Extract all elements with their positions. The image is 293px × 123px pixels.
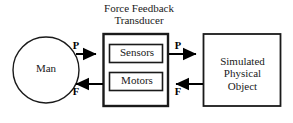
node-object-label-line2: Physical bbox=[224, 67, 261, 79]
node-object-label: SimulatedPhysicalObject bbox=[204, 55, 281, 92]
diagram-canvas: Force FeedbackTransducer Man Sensors Mot… bbox=[0, 0, 293, 123]
edge-label-f-right: F bbox=[172, 86, 184, 97]
node-sensors-label: Sensors bbox=[110, 46, 164, 58]
node-motors-label: Motors bbox=[110, 74, 164, 86]
edge-label-p-right: P bbox=[172, 40, 184, 51]
edge-label-p-left: P bbox=[70, 40, 82, 51]
diagram-title-line1: Force Feedback bbox=[104, 2, 174, 14]
diagram-title: Force FeedbackTransducer bbox=[78, 2, 200, 27]
node-object-label-line1: Simulated bbox=[220, 55, 265, 67]
node-man-label: Man bbox=[13, 62, 79, 74]
node-object-label-line3: Object bbox=[228, 80, 257, 92]
diagram-title-line2: Transducer bbox=[114, 14, 163, 26]
edge-label-f-left: F bbox=[70, 86, 82, 97]
